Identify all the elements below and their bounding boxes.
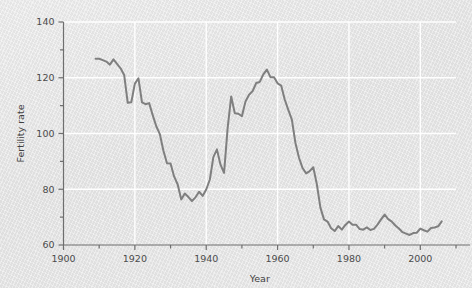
tick-labels: 6080100120140190019201940196019802000 (36, 16, 432, 264)
y-axis-title: Fertility rate (15, 104, 26, 162)
y-tick-label: 140 (36, 16, 54, 27)
x-tick-label: 1980 (337, 253, 361, 264)
x-tick-label: 2000 (408, 253, 432, 264)
y-tick-label: 100 (36, 128, 54, 139)
x-tick-label: 1900 (51, 253, 75, 264)
gridlines (64, 22, 457, 245)
x-tick-label: 1940 (194, 253, 218, 264)
y-tick-label: 80 (42, 184, 54, 195)
data-line-series (96, 59, 442, 235)
chart-figure: 6080100120140190019201940196019802000 Fe… (0, 0, 472, 288)
series-fertility-rate (96, 59, 442, 235)
y-tick-label: 60 (42, 239, 54, 250)
tick-marks (59, 22, 457, 250)
x-axis-title: Year (249, 273, 270, 284)
y-tick-label: 120 (36, 72, 54, 83)
x-tick-label: 1960 (265, 253, 289, 264)
fertility-rate-line-chart: 6080100120140190019201940196019802000 Fe… (0, 0, 472, 288)
x-tick-label: 1920 (123, 253, 147, 264)
